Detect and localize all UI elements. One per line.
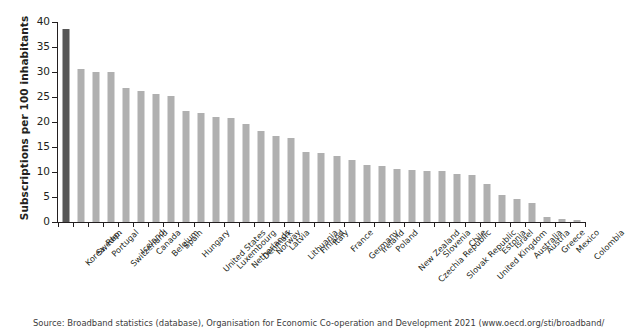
bar-slot <box>329 22 344 222</box>
bar[interactable] <box>137 91 144 222</box>
bar-slot <box>480 22 495 222</box>
bar-slot <box>344 22 359 222</box>
x-tick-mark <box>540 222 541 227</box>
bar[interactable] <box>318 153 325 223</box>
bar-slot <box>254 22 269 222</box>
x-tick-mark <box>103 222 104 227</box>
bar[interactable] <box>544 217 551 222</box>
bar[interactable] <box>228 118 235 222</box>
x-tick-mark <box>329 222 330 227</box>
bar-slot <box>148 22 163 222</box>
y-tick-label: 25 <box>37 90 50 103</box>
bar[interactable] <box>213 117 220 223</box>
bar[interactable] <box>499 195 506 222</box>
x-axis-label: Hungary <box>200 228 231 259</box>
bar-slot <box>133 22 148 222</box>
bar-slot <box>118 22 133 222</box>
bar-slot <box>239 22 254 222</box>
bar[interactable] <box>273 136 280 223</box>
bar-slot <box>269 22 284 222</box>
y-tick-mark <box>52 72 57 73</box>
bar-slot <box>178 22 193 222</box>
bar[interactable] <box>393 169 400 222</box>
bar[interactable] <box>469 175 476 223</box>
bar-slot <box>299 22 314 222</box>
x-tick-mark <box>254 222 255 227</box>
bar[interactable] <box>243 124 250 222</box>
x-tick-mark <box>178 222 179 227</box>
x-tick-mark <box>525 222 526 227</box>
bar-slot <box>374 22 389 222</box>
bar[interactable] <box>303 152 310 223</box>
bar-slot <box>284 22 299 222</box>
bar[interactable] <box>423 171 430 223</box>
bar[interactable] <box>198 113 205 223</box>
bar-slot <box>525 22 540 222</box>
y-axis-title: Subscriptions per 100 inhabitants <box>18 13 30 223</box>
bar-slot <box>465 22 480 222</box>
x-tick-mark <box>585 222 586 227</box>
bar-slot <box>314 22 329 222</box>
y-tick-label: 20 <box>37 115 50 128</box>
bar[interactable] <box>514 199 521 222</box>
bar[interactable] <box>454 174 461 222</box>
bar-slot <box>88 22 103 222</box>
bar[interactable] <box>152 94 159 222</box>
y-tick-mark <box>52 122 57 123</box>
bar[interactable] <box>77 69 84 223</box>
y-tick-label: 15 <box>37 140 50 153</box>
bar[interactable] <box>363 165 370 223</box>
x-tick-mark <box>148 222 149 227</box>
bar[interactable] <box>574 220 581 222</box>
bar-slot <box>419 22 434 222</box>
source-note: Source: Broadband statistics (database),… <box>33 318 589 329</box>
x-tick-mark <box>344 222 345 227</box>
bar[interactable] <box>167 96 174 223</box>
bar-slot <box>555 22 570 222</box>
bar-slot <box>163 22 178 222</box>
bar[interactable] <box>529 203 536 223</box>
y-tick-mark <box>52 22 57 23</box>
bar[interactable] <box>122 88 129 222</box>
x-tick-mark <box>449 222 450 227</box>
bar[interactable] <box>559 219 566 222</box>
x-tick-mark <box>495 222 496 227</box>
y-tick-label: 5 <box>43 190 50 203</box>
bar[interactable] <box>107 72 114 222</box>
y-tick-mark <box>52 97 57 98</box>
x-tick-mark <box>118 222 119 227</box>
y-tick-label: 0 <box>43 215 50 228</box>
bar[interactable] <box>62 29 69 223</box>
bar[interactable] <box>484 184 491 223</box>
x-tick-mark <box>314 222 315 227</box>
bar-slot <box>194 22 209 222</box>
bar[interactable] <box>258 131 265 222</box>
x-axis-label: Spain <box>182 228 205 251</box>
x-tick-mark <box>299 222 300 227</box>
y-tick-mark <box>52 197 57 198</box>
y-tick-mark <box>52 147 57 148</box>
x-tick-mark <box>434 222 435 227</box>
y-tick-mark <box>52 172 57 173</box>
x-tick-mark <box>209 222 210 227</box>
bar[interactable] <box>333 156 340 223</box>
bar-series <box>58 22 585 222</box>
bar-slot <box>449 22 464 222</box>
bar-slot <box>224 22 239 222</box>
y-tick-mark <box>52 47 57 48</box>
bar-slot <box>540 22 555 222</box>
bar[interactable] <box>92 72 99 223</box>
plot-area: 0510152025303540 <box>57 22 585 222</box>
bar[interactable] <box>408 170 415 222</box>
bar[interactable] <box>438 171 445 222</box>
bar[interactable] <box>288 138 295 222</box>
x-tick-mark <box>88 222 89 227</box>
bar-slot <box>209 22 224 222</box>
x-tick-mark <box>194 222 195 227</box>
bar-slot <box>434 22 449 222</box>
bar[interactable] <box>348 160 355 223</box>
bar[interactable] <box>378 166 385 222</box>
x-tick-mark <box>163 222 164 227</box>
bar[interactable] <box>182 111 189 222</box>
